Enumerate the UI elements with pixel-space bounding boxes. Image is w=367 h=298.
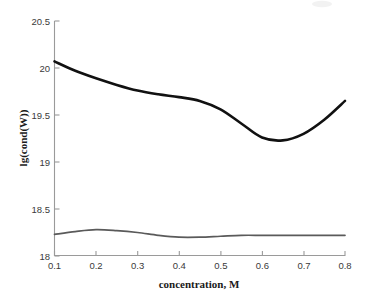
x-tick-label: 0.8 [338, 260, 351, 271]
y-axis-title: lg(cond(W)) [17, 109, 30, 166]
x-tick-label: 0.3 [131, 260, 144, 271]
x-tick-label: 0.5 [214, 260, 227, 271]
x-tick-label: 0.6 [256, 260, 269, 271]
x-tick-label: 0.2 [89, 260, 102, 271]
y-tick-label: 18.5 [32, 204, 51, 215]
y-tick-label: 20 [39, 63, 50, 74]
line-chart-canvas: 18 18.5 19 19.5 20 20.5 0.1 0.2 0.3 0.4 … [0, 0, 367, 298]
chart-figure: 18 18.5 19 19.5 20 20.5 0.1 0.2 0.3 0.4 … [0, 0, 367, 298]
x-axis-title: concentration, M [159, 278, 240, 290]
y-tick-label: 19.5 [32, 110, 51, 121]
top-right-artifact [312, 1, 332, 7]
x-tick-label: 0.7 [297, 260, 310, 271]
x-tick-label: 0.4 [173, 260, 186, 271]
y-tick-label: 20.5 [32, 16, 51, 27]
x-tick-label: 0.1 [48, 260, 61, 271]
y-tick-label: 19 [39, 157, 50, 168]
